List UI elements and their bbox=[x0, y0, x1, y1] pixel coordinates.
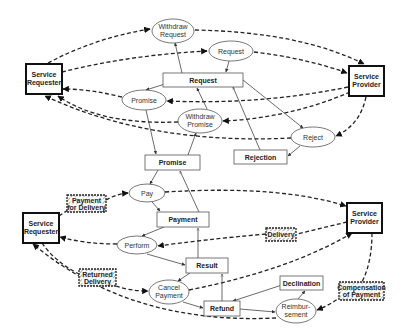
state-payment[interactable]: Payment bbox=[157, 212, 209, 227]
action-label: Withdraw bbox=[185, 113, 215, 120]
action-reimbursement[interactable]: Reimbur- sement bbox=[276, 299, 316, 323]
actor-service-provider-bottom[interactable]: Service Provider bbox=[347, 203, 382, 233]
actor-label: Service bbox=[354, 73, 379, 80]
object-label: Returned bbox=[82, 271, 113, 278]
action-reject[interactable]: Reject bbox=[291, 127, 335, 147]
object-label: of Payment bbox=[343, 291, 381, 299]
object-label: Delivery bbox=[267, 231, 294, 239]
actor-service-requester-bottom[interactable]: Service Requester bbox=[23, 213, 59, 243]
state-label: Promise bbox=[159, 159, 187, 166]
state-promise[interactable]: Promise bbox=[145, 155, 200, 170]
action-label: Promise bbox=[131, 97, 157, 104]
actor-label: Provider bbox=[352, 81, 381, 88]
actor-label: Requester bbox=[24, 228, 59, 236]
action-label: Request bbox=[218, 48, 244, 56]
action-label: Payment bbox=[155, 292, 183, 300]
state-result[interactable]: Result bbox=[186, 258, 228, 273]
action-request[interactable]: Request bbox=[209, 41, 253, 61]
action-label: sement bbox=[285, 311, 308, 318]
action-label: Reimbur- bbox=[282, 303, 311, 310]
actor-service-requester-top[interactable]: Service Requester bbox=[26, 64, 62, 94]
state-label: Payment bbox=[168, 216, 198, 224]
object-payment-for-delivery[interactable]: Payment for Delivery bbox=[67, 195, 106, 212]
action-cancel-payment[interactable]: Cancel Payment bbox=[149, 280, 189, 304]
actor-label: Service bbox=[352, 210, 377, 217]
state-label: Request bbox=[189, 77, 217, 85]
state-request[interactable]: Request bbox=[163, 73, 243, 87]
state-label: Rejection bbox=[245, 154, 277, 162]
actor-label: Provider bbox=[350, 218, 379, 225]
state-declination[interactable]: Declination bbox=[280, 276, 323, 290]
object-label: for Delivery bbox=[67, 204, 106, 212]
action-promise[interactable]: Promise bbox=[122, 90, 166, 110]
object-returned-delivery[interactable]: Returned Delivery bbox=[79, 269, 116, 286]
action-label: Perform bbox=[125, 242, 150, 249]
action-label: Cancel bbox=[158, 284, 180, 291]
state-refund[interactable]: Refund bbox=[204, 301, 240, 316]
action-withdraw-promise[interactable]: Withdraw Promise bbox=[178, 109, 222, 133]
actor-label: Service bbox=[29, 220, 54, 227]
action-perform[interactable]: Perform bbox=[117, 236, 157, 254]
object-label: Delivery bbox=[84, 278, 111, 286]
action-label: Withdraw bbox=[158, 23, 188, 30]
action-label: Reject bbox=[303, 134, 323, 142]
action-pay[interactable]: Pay bbox=[129, 184, 165, 202]
object-compensation-of-payment[interactable]: Compensation of Payment bbox=[337, 282, 386, 300]
action-label: Promise bbox=[187, 121, 213, 128]
object-delivery[interactable]: Delivery bbox=[266, 228, 296, 241]
state-label: Refund bbox=[210, 305, 234, 312]
state-rejection[interactable]: Rejection bbox=[234, 150, 287, 164]
state-label: Result bbox=[196, 262, 218, 269]
actor-label: Service bbox=[32, 71, 57, 78]
action-label: Request bbox=[160, 31, 186, 39]
action-withdraw-request[interactable]: Withdraw Request bbox=[152, 19, 194, 43]
state-label: Declination bbox=[283, 280, 321, 287]
actor-service-provider-top[interactable]: Service Provider bbox=[349, 66, 384, 96]
actor-label: Requester bbox=[27, 79, 62, 87]
action-label: Pay bbox=[141, 190, 154, 198]
diagram-canvas: Service Requester Service Provider Servi… bbox=[0, 0, 404, 335]
